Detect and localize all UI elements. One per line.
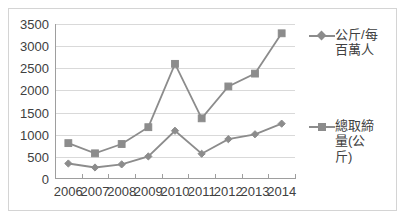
x-axis-tick-label: 2007 (81, 185, 110, 198)
x-axis-tick-label: 2011 (188, 185, 216, 198)
data-point-diamond (118, 161, 125, 168)
data-point-square (172, 60, 179, 67)
series-kg-per-million-people (65, 120, 286, 171)
x-axis-tick-label: 2013 (241, 185, 270, 198)
data-point-square (225, 83, 232, 90)
x-axis-tick-label: 2008 (107, 185, 136, 198)
legend-item-kg-per-million-people[interactable]: 公斤/每百萬人 (309, 27, 381, 58)
x-axis-tick (295, 174, 296, 179)
y-axis-tick-label: 3000 (7, 40, 49, 53)
plot-inner (55, 24, 295, 179)
data-point-diamond (251, 131, 258, 138)
data-point-square (278, 30, 285, 37)
plot-area: 0500100015002000250030003500 20062007200… (55, 24, 295, 179)
legend-marker-square-icon (309, 120, 335, 134)
x-axis-tick-label: 2014 (267, 185, 296, 198)
y-axis-tick-label: 3500 (7, 18, 49, 31)
data-point-square (252, 70, 259, 77)
legend-label: 總取締量(公斤) (335, 118, 381, 164)
data-point-diamond (91, 164, 98, 171)
chart-legend: 公斤/每百萬人 總取締量(公斤) (309, 23, 395, 199)
data-point-square (118, 141, 125, 148)
legend-marker-diamond-icon (309, 29, 335, 43)
y-axis-tick-label: 500 (7, 150, 49, 163)
y-axis-tick-label: 2500 (7, 62, 49, 75)
y-axis-tick-label: 1000 (7, 128, 49, 141)
x-axis-tick-label: 2012 (214, 185, 243, 198)
x-axis-tick-label: 2009 (134, 185, 163, 198)
data-point-diamond (278, 120, 285, 127)
data-point-square (145, 124, 152, 131)
data-point-diamond (225, 136, 232, 143)
y-axis-tick-label: 2000 (7, 84, 49, 97)
series-plot (55, 24, 295, 179)
data-point-diamond (65, 160, 72, 167)
y-axis-tick-label: 1500 (7, 106, 49, 119)
x-axis-tick-label: 2006 (54, 185, 83, 198)
y-axis-tick-label: 0 (7, 173, 49, 186)
x-axis-tick-label: 2010 (161, 185, 190, 198)
series-total-seizure-amount (65, 30, 285, 157)
chart-frame: 0500100015002000250030003500 20062007200… (8, 8, 397, 211)
data-point-square (198, 115, 205, 122)
x-axis-tick-labels: 200620072008200920102011201220132014 (55, 179, 295, 203)
y-axis-tick-labels: 0500100015002000250030003500 (7, 24, 49, 179)
legend-item-total-seizure-amount[interactable]: 總取締量(公斤) (309, 118, 381, 164)
legend-label: 公斤/每百萬人 (335, 27, 381, 58)
data-point-square (65, 140, 72, 147)
data-point-square (92, 150, 99, 157)
